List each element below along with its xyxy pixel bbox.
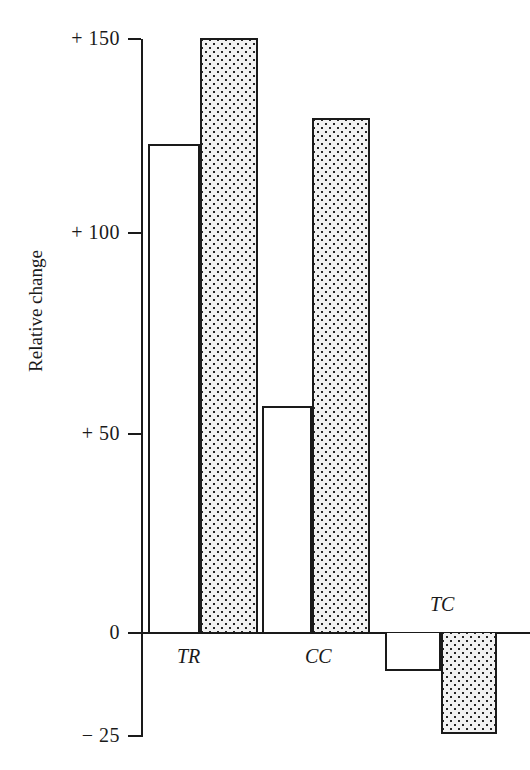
y-tick-neg25	[128, 735, 141, 737]
y-tick-150	[128, 38, 141, 40]
bar-tr-open	[148, 144, 200, 634]
bar-cc-stippled	[312, 118, 370, 634]
y-tick-100	[128, 232, 141, 234]
y-tick-label-50: + 50	[0, 422, 120, 445]
bar-chart: Relative change + 150 + 100 + 50 0 − 25 …	[0, 0, 530, 770]
y-tick-label-150: + 150	[0, 27, 120, 50]
y-axis-title: Relative change	[25, 231, 47, 391]
category-label-cc: CC	[305, 645, 332, 668]
bar-tc-stippled	[441, 633, 497, 734]
y-tick-0	[128, 632, 141, 634]
category-label-tc: TC	[430, 593, 454, 616]
y-tick-label-0: 0	[0, 621, 120, 644]
bar-cc-open	[262, 406, 312, 634]
y-tick-50	[128, 433, 141, 435]
bar-tc-open	[385, 633, 441, 671]
y-tick-label-neg25: − 25	[0, 724, 120, 747]
y-tick-label-100: + 100	[0, 221, 120, 244]
category-label-tr: TR	[177, 645, 200, 668]
bar-tr-stippled	[200, 38, 258, 634]
